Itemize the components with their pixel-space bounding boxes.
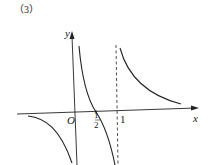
tick-half-denominator: 2	[94, 121, 99, 130]
asymptote-line	[116, 45, 118, 165]
x-axis-arrow-icon	[191, 106, 199, 111]
function-graph	[0, 0, 217, 165]
y-axis-label: y	[65, 28, 70, 39]
y-axis	[72, 36, 77, 165]
x-axis	[17, 108, 196, 114]
tick-one-label: 1	[120, 114, 126, 125]
tick-half-numerator: 1	[94, 111, 99, 120]
origin-label: O	[67, 115, 75, 126]
curve-left-branch	[28, 116, 72, 163]
curve-right-branch	[120, 48, 181, 104]
curve-middle-branch	[79, 46, 115, 165]
y-axis-arrow-icon	[70, 31, 75, 39]
x-axis-label: x	[193, 113, 198, 124]
